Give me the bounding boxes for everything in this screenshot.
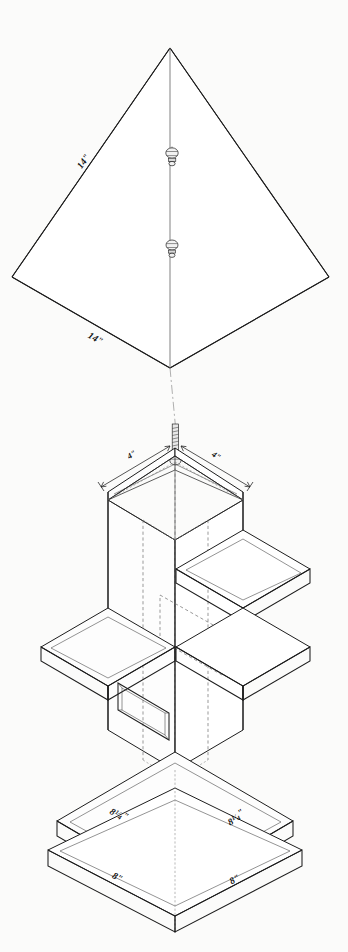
dimension-roof-lower-left-text: 14" [86,330,104,346]
tower-rear-right-hidden [175,462,243,500]
technical-drawing-canvas: 14" 14" [0,0,348,952]
roof-development-view: 14" 14" [12,48,329,432]
dimension-roof-lower-left: 14" [86,330,104,346]
cupola-assembly-view: 4" 4" [41,424,310,932]
projection-center-line [170,368,176,432]
tower-rear-left-hidden [108,462,175,500]
drawing-sheet: 14" 14" [0,0,348,952]
dimension-cap-left-text: 4" [125,449,138,462]
dimension-cap-right-text: 4" [209,449,222,462]
